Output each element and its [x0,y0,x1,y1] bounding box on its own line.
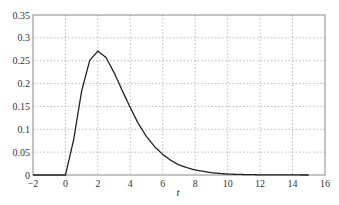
x-tick-label: 16 [320,178,330,189]
x-tick-label: 10 [223,178,233,189]
y-tick-label: 0.15 [13,101,31,112]
x-tick-label: 8 [193,178,198,189]
y-tick-label: 0.35 [13,10,31,21]
y-tick-label: 0.05 [13,147,31,158]
y-tick-label: 0.2 [18,78,31,89]
plot-frame [33,15,325,175]
x-tick-label: 6 [160,178,165,189]
y-tick-label: 0 [25,170,30,181]
x-tick-label: 0 [63,178,68,189]
y-tick-label: 0.1 [18,124,31,135]
x-tick-label: 12 [255,178,265,189]
x-tick-label: 2 [95,178,100,189]
y-tick-label: 0.25 [13,55,31,66]
y-tick-label: 0.3 [18,32,31,43]
line-chart: −20246810121416 00.050.10.150.20.250.30.… [0,0,339,205]
x-tick-label: 4 [128,178,133,189]
data-line [33,51,309,175]
grid-lines [33,15,325,175]
y-axis-ticks: 00.050.10.150.20.250.30.35 [13,10,31,181]
x-tick-label: 14 [288,178,298,189]
x-axis-label: t [176,186,180,198]
